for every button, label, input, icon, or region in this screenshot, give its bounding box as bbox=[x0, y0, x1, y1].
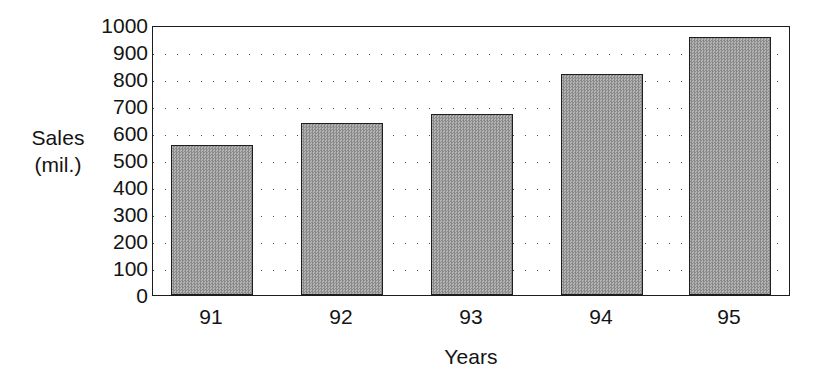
plot-area bbox=[152, 26, 790, 296]
y-tick-label: 0 bbox=[40, 285, 148, 306]
x-tick-label: 94 bbox=[561, 305, 641, 329]
bar-91 bbox=[171, 145, 253, 295]
y-tick-label: 100 bbox=[40, 258, 148, 279]
x-tick-label: 92 bbox=[301, 305, 381, 329]
x-tick-label: 95 bbox=[689, 305, 769, 329]
x-axis-tick-labels: 9192939495 bbox=[152, 305, 790, 335]
y-tick-label: 1000 bbox=[40, 15, 148, 36]
y-axis-tick-labels: 10009008007006005004003002001000 bbox=[40, 0, 148, 388]
x-axis-title: Years bbox=[152, 345, 790, 369]
y-tick-label: 200 bbox=[40, 231, 148, 252]
y-tick-label: 900 bbox=[40, 42, 148, 63]
x-tick-label: 93 bbox=[431, 305, 511, 329]
bar-94 bbox=[561, 74, 643, 295]
bar-93 bbox=[431, 114, 513, 295]
y-tick-label: 700 bbox=[40, 96, 148, 117]
y-tick-label: 500 bbox=[40, 150, 148, 171]
bar-92 bbox=[301, 123, 383, 295]
y-tick-label: 400 bbox=[40, 177, 148, 198]
bars-layer bbox=[153, 27, 789, 295]
y-tick-label: 800 bbox=[40, 69, 148, 90]
y-tick-label: 300 bbox=[40, 204, 148, 225]
x-tick-label: 91 bbox=[171, 305, 251, 329]
bar-chart-figure: Sales (mil.) 100090080070060050040030020… bbox=[0, 0, 819, 388]
bar-95 bbox=[689, 37, 771, 295]
y-tick-label: 600 bbox=[40, 123, 148, 144]
